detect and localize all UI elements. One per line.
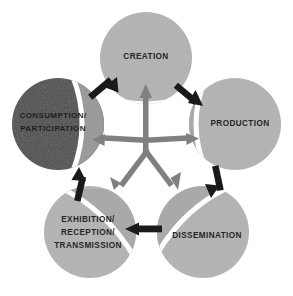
node-consumption-participation[interactable]: CONSUMPTION/ PARTICIPATION (12, 77, 120, 171)
node-production-label: PRODUCTION (210, 119, 269, 128)
cycle-arrow-creation-to-production (174, 83, 203, 106)
node-creation-label: CREATION (123, 52, 168, 61)
spoke-hub-center (143, 149, 150, 156)
node-consumption-label-line-1: CONSUMPTION/ (19, 111, 86, 120)
node-consumption-label-line-2: PARTICIPATION (20, 124, 86, 133)
spoke-hub-to-dissemination-arrow (144, 150, 181, 190)
node-exhibition-label-line-3: TRANSMISSION (54, 241, 122, 250)
cycle-arrow-consumption-to-creation (88, 77, 118, 100)
cycle-diagram-svg: CREATION PRODUCTION DISSEMINATION (0, 0, 293, 296)
node-dissemination-label: DISSEMINATION (172, 231, 242, 240)
node-exhibition-label-line-2: RECEPTION/ (61, 228, 115, 237)
spoke-hub-to-exhibition-arrow (110, 151, 148, 190)
cultural-cycle-diagram: CREATION PRODUCTION DISSEMINATION (0, 0, 293, 296)
node-exhibition-label-line-1: EXHIBITION/ (61, 215, 115, 224)
spokes-layer (92, 84, 199, 190)
